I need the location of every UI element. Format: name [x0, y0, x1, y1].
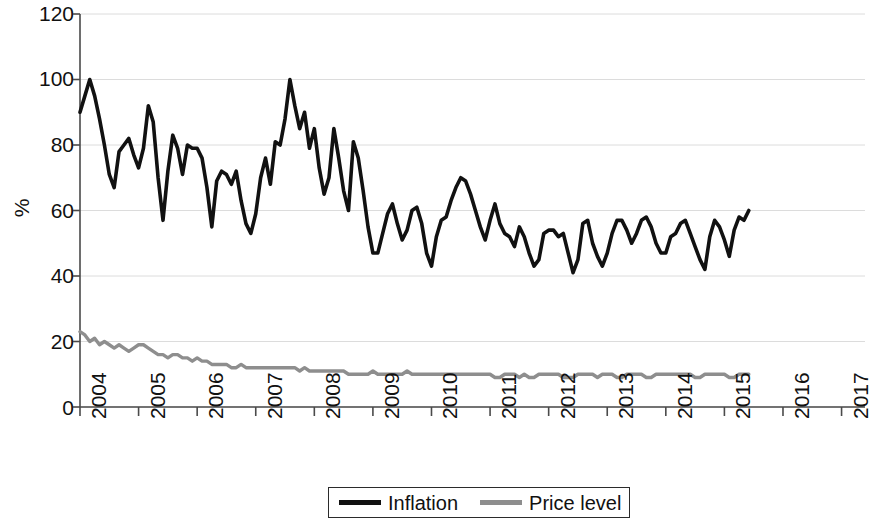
legend-swatch-inflation-icon — [339, 500, 381, 505]
x-tick-label: 2008 — [322, 372, 343, 419]
legend-item-price-level: Price level — [480, 493, 621, 513]
x-tick-label: 2007 — [264, 372, 285, 419]
x-tick-label: 2013 — [615, 372, 636, 419]
x-tick-label: 2011 — [498, 374, 519, 419]
x-tick-label: 2010 — [439, 372, 460, 419]
gridlines — [73, 14, 865, 407]
legend-label-price-level: Price level — [529, 493, 621, 513]
chart-legend: Inflation Price level — [328, 487, 630, 518]
x-tick-label: 2012 — [557, 372, 578, 419]
x-tick-label: 2005 — [147, 372, 168, 419]
series-line-inflation — [80, 80, 749, 273]
legend-swatch-price-level-icon — [480, 500, 522, 505]
legend-label-inflation: Inflation — [388, 493, 458, 513]
legend-item-inflation: Inflation — [339, 493, 458, 513]
x-tick-label: 2004 — [88, 372, 109, 419]
x-tick-label: 2006 — [205, 372, 226, 419]
x-tick-label: 2017 — [850, 372, 871, 419]
x-tick-label: 2009 — [381, 372, 402, 419]
x-tick-label: 2014 — [674, 372, 695, 419]
x-tick-label: 2016 — [791, 372, 812, 419]
x-tick-label: 2015 — [732, 372, 753, 419]
series-line-price-level — [80, 332, 749, 378]
